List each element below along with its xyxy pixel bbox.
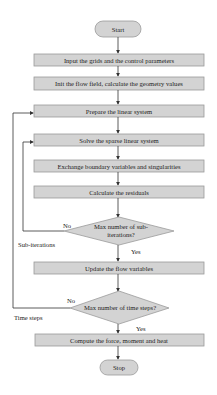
- svg-text:Calculate the residuals: Calculate the residuals: [89, 189, 149, 196]
- yes-label-1: Yes: [131, 248, 141, 255]
- svg-text:Init the flow field, calculate: Init the flow field, calculate the geome…: [55, 80, 183, 87]
- no-label-1: No: [63, 222, 72, 229]
- svg-text:Stop: Stop: [113, 364, 126, 371]
- svg-text:Update the flow variables: Update the flow variables: [85, 265, 153, 272]
- flowchart: Start Input the grids and the control pa…: [0, 0, 217, 395]
- no-label-2: No: [67, 297, 76, 304]
- yes-label-2: Yes: [136, 325, 146, 332]
- step-prepare-linear-system: Prepare the linear system: [34, 105, 204, 117]
- stop-node: Stop: [100, 360, 138, 375]
- svg-text:Compute the force, moment and: Compute the force, moment and heat: [70, 337, 168, 344]
- step-compute-force: Compute the force, moment and heat: [35, 334, 204, 346]
- svg-text:Max number of time steps?: Max number of time steps?: [84, 304, 156, 311]
- svg-text:Input the grids and the contro: Input the grids and the control paramete…: [64, 57, 175, 64]
- step-calculate-residuals: Calculate the residuals: [34, 186, 204, 198]
- svg-text:Start: Start: [112, 26, 125, 33]
- sub-iterations-label: Sub-iterations: [18, 241, 55, 248]
- step-init-flow-field: Init the flow field, calculate the geome…: [34, 77, 204, 90]
- svg-text:Prepare the linear system: Prepare the linear system: [86, 108, 153, 115]
- start-node: Start: [95, 21, 141, 37]
- svg-text:Exchange boundary variables an: Exchange boundary variables and singular…: [57, 163, 180, 170]
- step-exchange-boundary: Exchange boundary variables and singular…: [34, 160, 204, 172]
- step-solve-sparse-system: Solve the sparse linear system: [34, 134, 204, 146]
- svg-text:Solve the sparse linear system: Solve the sparse linear system: [79, 137, 159, 144]
- time-steps-label: Time steps: [14, 314, 43, 321]
- step-update-flow-variables: Update the flow variables: [34, 262, 204, 274]
- step-input-grids: Input the grids and the control paramete…: [34, 54, 204, 66]
- decision-time-steps: Max number of time steps?: [70, 291, 169, 324]
- svg-text:iterations?: iterations?: [107, 231, 135, 238]
- decision-sub-iterations: Max number of sub- iterations?: [64, 217, 174, 245]
- svg-text:Max number of sub-: Max number of sub-: [94, 223, 148, 230]
